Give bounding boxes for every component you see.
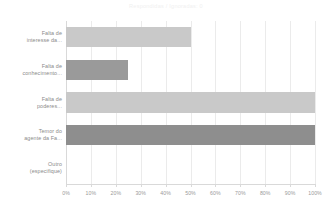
x-tick-label-90pct: 90% bbox=[285, 190, 296, 196]
bar-row bbox=[66, 27, 315, 47]
grid-line bbox=[315, 21, 316, 184]
category-label-2: Falta deconhecimento... bbox=[0, 63, 62, 77]
x-tick-label-0pct: 0% bbox=[62, 190, 70, 196]
x-tick-mark bbox=[91, 184, 92, 187]
category-label-line2: agente da Fa... bbox=[0, 135, 62, 142]
x-tick-label-50pct: 50% bbox=[185, 190, 196, 196]
category-label-4: Temor doagente da Fa... bbox=[0, 128, 62, 142]
x-tick-label-100pct: 100% bbox=[308, 190, 321, 196]
x-tick-mark bbox=[166, 184, 167, 187]
x-tick-mark bbox=[265, 184, 266, 187]
category-label-line1: Outro bbox=[0, 161, 62, 168]
bar-row bbox=[66, 60, 315, 80]
x-tick-label-70pct: 70% bbox=[235, 190, 246, 196]
category-label-line2: conhecimento... bbox=[0, 70, 62, 77]
category-label-line1: Temor do bbox=[0, 128, 62, 135]
category-label-1: Falta deinteresse da... bbox=[0, 30, 62, 44]
x-tick-mark bbox=[215, 184, 216, 187]
x-tick-label-80pct: 80% bbox=[260, 190, 271, 196]
bar-3[interactable] bbox=[66, 92, 315, 112]
bar-2[interactable] bbox=[66, 60, 128, 80]
x-tick-mark bbox=[116, 184, 117, 187]
x-tick-mark bbox=[141, 184, 142, 187]
bar-chart: Respondidas / Ignoradas: 0 Falta deinter… bbox=[0, 0, 332, 218]
bar-row bbox=[66, 158, 315, 178]
bar-row bbox=[66, 125, 315, 145]
x-tick-label-30pct: 30% bbox=[135, 190, 146, 196]
category-label-line1: Falta de bbox=[0, 63, 62, 70]
category-label-line2: interesse da... bbox=[0, 37, 62, 44]
x-tick-label-60pct: 60% bbox=[210, 190, 221, 196]
x-tick-label-10pct: 10% bbox=[86, 190, 97, 196]
category-label-line1: Falta de bbox=[0, 96, 62, 103]
x-tick-label-20pct: 20% bbox=[111, 190, 122, 196]
bar-1[interactable] bbox=[66, 27, 191, 47]
x-tick-mark bbox=[290, 184, 291, 187]
category-label-3: Falta depoderes... bbox=[0, 96, 62, 110]
x-tick-mark bbox=[240, 184, 241, 187]
x-tick-mark bbox=[315, 184, 316, 187]
category-label-line1: Falta de bbox=[0, 30, 62, 37]
category-label-line2: (especifique) bbox=[0, 168, 62, 175]
x-tick-mark bbox=[66, 184, 67, 187]
plot-area bbox=[66, 21, 315, 184]
chart-title: Respondidas / Ignoradas: 0 bbox=[0, 3, 332, 9]
bar-4[interactable] bbox=[66, 125, 315, 145]
category-label-5: Outro(especifique) bbox=[0, 161, 62, 175]
x-tick-label-40pct: 40% bbox=[160, 190, 171, 196]
bar-row bbox=[66, 92, 315, 112]
x-tick-mark bbox=[191, 184, 192, 187]
category-label-line2: poderes... bbox=[0, 103, 62, 110]
